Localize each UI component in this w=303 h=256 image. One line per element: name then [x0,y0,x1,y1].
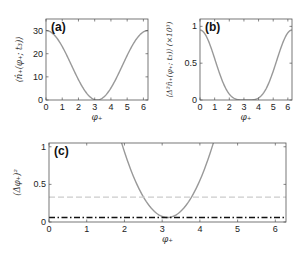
x-tick-label: 6 [273,224,278,234]
y-axis-label: ⟨n̂₊(φ₊; t₃)⟩ [14,36,24,82]
x-axis-label: φ₊ [162,234,173,244]
panel-c-plot: 012345600.51(c)φ₊(Δφ₊)² [12,0,286,244]
x-tick-label: 1 [212,102,217,112]
x-tick-label: 6 [285,102,290,112]
y-axis-label: (Δφ₊)² [12,169,22,196]
x-tick-label: 3 [160,224,165,234]
y-tick-label: 0 [38,95,43,105]
y-tick-label: 1 [41,142,46,152]
panel-b-plot: 012345600.51(b)φ₊⟨Δ²n̂₊(φ₊; t₃)⟩ (×10³) [165,19,292,122]
x-tick-label: 0 [46,224,51,234]
x-tick-label: 4 [256,102,261,112]
x-tick-label: 5 [125,102,130,112]
y-axis-label: ⟨Δ²n̂₊(φ₊; t₃)⟩ (×10³) [165,21,174,97]
x-tick-label: 2 [227,102,232,112]
x-tick-label: 4 [108,102,113,112]
x-axis-label: φ₊ [91,112,102,122]
x-tick-label: 2 [122,224,127,234]
y-tick-label: 0.5 [33,179,46,189]
x-tick-label: 6 [141,102,146,112]
x-tick-label: 2 [76,102,81,112]
series-line-0 [200,30,292,100]
x-tick-label: 5 [271,102,276,112]
axes-frame [49,143,286,222]
y-tick-label: 1 [192,21,197,31]
panel-a-plot: 01234560102030(a)φ₊⟨n̂₊(φ₊; t₃)⟩ [14,19,148,122]
x-tick-label: 0 [43,102,48,112]
x-tick-label: 3 [241,102,246,112]
x-tick-label: 0 [197,102,202,112]
x-tick-label: 4 [197,224,202,234]
x-axis-label: φ₊ [240,112,251,122]
y-tick-label: 0 [192,95,197,105]
panel-label: (c) [54,144,69,158]
y-tick-label: 0.5 [184,58,197,68]
panel-label: (a) [51,20,66,34]
y-tick-label: 30 [33,26,43,36]
x-tick-label: 1 [60,102,65,112]
x-tick-label: 5 [235,224,240,234]
x-tick-label: 3 [92,102,97,112]
y-tick-label: 0 [41,217,46,227]
series-line-0 [46,31,148,100]
figure: 01234560102030(a)φ₊⟨n̂₊(φ₊; t₃)⟩ 0123456… [0,0,303,256]
y-tick-label: 20 [33,49,43,59]
y-tick-label: 10 [33,72,43,82]
x-tick-label: 1 [84,224,89,234]
panel-label: (b) [205,20,220,34]
